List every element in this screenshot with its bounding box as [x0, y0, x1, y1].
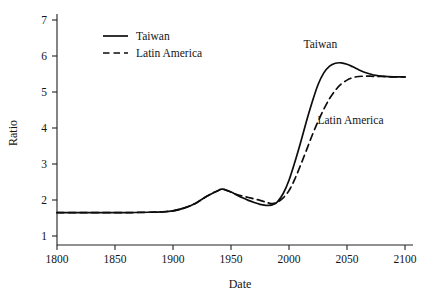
legend-label-taiwan: Taiwan: [136, 30, 170, 42]
y-tick-label: 5: [41, 86, 47, 98]
annotation-latin-america: Latin America: [317, 114, 383, 126]
y-tick-label: 3: [41, 158, 47, 170]
x-tick-label: 2100: [394, 253, 417, 265]
line-chart: 1800185019001950200020502100 1234567 Tai…: [0, 0, 423, 299]
chart-figure: 1800185019001950200020502100 1234567 Tai…: [0, 0, 423, 299]
x-tick-label: 2000: [278, 253, 301, 265]
y-tick-label: 1: [41, 230, 47, 242]
series-line-taiwan: [57, 63, 405, 213]
y-tick-label: 6: [41, 50, 47, 62]
y-tick-label: 4: [41, 122, 47, 134]
x-tick-label: 1950: [220, 253, 243, 265]
series-line-latin-america: [57, 76, 405, 213]
x-tick-label: 1850: [104, 253, 127, 265]
y-axis-tick-labels: 1234567: [41, 14, 47, 242]
annotation-taiwan: Taiwan: [303, 38, 337, 50]
inline-series-annotations: TaiwanLatin America: [303, 38, 383, 126]
y-tick-label: 7: [41, 14, 47, 26]
axis-lines: [57, 14, 413, 245]
legend-label-latin-america: Latin America: [136, 47, 202, 59]
y-tick-label: 2: [41, 194, 47, 206]
y-axis-ticks: [52, 20, 57, 236]
x-axis-title: Date: [229, 277, 252, 291]
chart-legend: TaiwanLatin America: [103, 30, 202, 59]
x-axis-ticks: [57, 245, 405, 250]
x-axis-tick-labels: 1800185019001950200020502100: [46, 253, 417, 265]
x-tick-label: 2050: [336, 253, 359, 265]
data-series: [57, 63, 405, 213]
axes: 1800185019001950200020502100 1234567: [41, 14, 417, 265]
y-axis-title: Ratio: [6, 120, 20, 146]
x-tick-label: 1900: [162, 253, 185, 265]
x-tick-label: 1800: [46, 253, 69, 265]
